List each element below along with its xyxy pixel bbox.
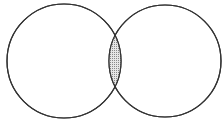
venn-diagram — [0, 0, 224, 122]
set-b-outline — [109, 5, 221, 117]
set-a-outline — [7, 4, 121, 118]
